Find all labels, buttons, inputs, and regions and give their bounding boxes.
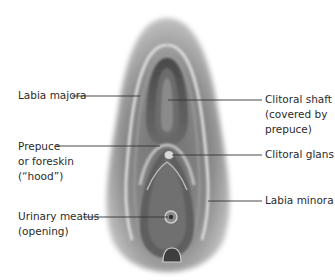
label-text: (“hood”) xyxy=(18,169,74,184)
label-urinary-meatus: Urinary meatus (opening) xyxy=(18,209,99,239)
label-text: Clitoral shaft xyxy=(265,92,332,107)
label-labia-majora: Labia majora xyxy=(18,88,86,103)
label-text: (covered by xyxy=(265,107,332,122)
label-clitoral-shaft: Clitoral shaft (covered by prepuce) xyxy=(265,92,332,137)
label-text: Clitoral glans xyxy=(265,147,334,162)
vaginal-opening-shape xyxy=(163,248,181,262)
label-clitoral-glans: Clitoral glans xyxy=(265,147,334,162)
label-prepuce: Prepuce or foreskin (“hood”) xyxy=(18,139,74,184)
label-text: or foreskin xyxy=(18,154,74,169)
label-labia-minora: Labia minora xyxy=(265,193,334,208)
label-text: Prepuce xyxy=(18,139,74,154)
label-text: Labia majora xyxy=(18,88,86,103)
label-text: Urinary meatus xyxy=(18,209,99,224)
anatomy-diagram: Labia majora Prepuce or foreskin (“hood”… xyxy=(0,0,335,280)
label-text: (opening) xyxy=(18,224,99,239)
label-text: Labia minora xyxy=(265,193,334,208)
label-text: prepuce) xyxy=(265,122,332,137)
